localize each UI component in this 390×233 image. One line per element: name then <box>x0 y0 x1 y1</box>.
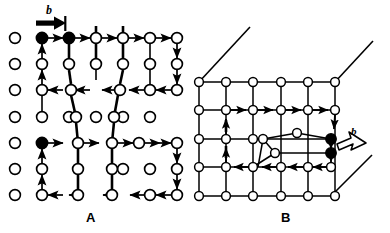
atom-open <box>73 164 84 175</box>
atom-open <box>66 85 77 96</box>
atom-open <box>304 192 313 201</box>
atom-open <box>277 78 286 87</box>
atom-open <box>118 164 129 175</box>
atom-open <box>222 78 231 87</box>
atom-open <box>145 190 156 201</box>
atom-open <box>118 59 129 70</box>
atom-open <box>331 106 340 115</box>
panel-a: b <box>10 3 183 200</box>
atom-open <box>304 106 313 115</box>
burgers-label-b: b <box>351 125 357 137</box>
atom-open <box>249 192 258 201</box>
lattice-plane <box>120 70 123 84</box>
lattice-atoms-a <box>10 33 156 201</box>
atom-open <box>249 135 258 144</box>
atom-open <box>10 112 21 123</box>
atom-open <box>37 59 48 70</box>
atom-open <box>249 106 258 115</box>
atom-open <box>109 112 120 123</box>
atom-open <box>271 149 280 158</box>
atom-open <box>277 192 286 201</box>
atom-open <box>37 112 48 123</box>
burgers-vector-marker-a: b <box>36 3 66 31</box>
atom-open <box>293 129 302 138</box>
atom-open <box>91 33 102 44</box>
atom-open <box>172 164 183 175</box>
atom-open <box>304 163 313 172</box>
atom-open <box>107 190 118 201</box>
burgers-label-a: b <box>46 3 52 17</box>
dislocation-burgers-circuit-diagram: b <box>0 0 390 233</box>
atom-open <box>37 85 48 96</box>
atom-open <box>172 190 183 201</box>
figure-canvas: b <box>0 0 390 233</box>
atom-open <box>195 192 204 201</box>
atom-open <box>331 78 340 87</box>
slip-plane-trace <box>199 27 250 82</box>
atom-open <box>145 85 156 96</box>
atom-open <box>222 106 231 115</box>
burgers-vector-marker-b: b <box>337 125 366 150</box>
burgers-circuit-upper-a <box>42 38 177 90</box>
atom-open <box>10 190 21 201</box>
atom-open <box>172 33 183 44</box>
panel-label-b: B <box>281 210 291 225</box>
atom-open <box>73 190 84 201</box>
atom-open <box>71 112 82 123</box>
atom-open <box>195 163 204 172</box>
atom-open <box>107 164 118 175</box>
atom-open <box>172 138 183 149</box>
atom-filled <box>326 134 336 144</box>
atom-open <box>195 106 204 115</box>
atom-open <box>37 164 48 175</box>
atom-open <box>134 138 145 149</box>
atom-open <box>172 59 183 70</box>
atom-open <box>37 190 48 201</box>
atom-open <box>277 163 286 172</box>
slip-plane-trace <box>335 41 373 82</box>
atom-open <box>10 164 21 175</box>
circuit-atoms-lower-a <box>36 137 182 200</box>
atom-open <box>64 59 75 70</box>
atom-filled <box>326 148 336 158</box>
lattice-planes-lower-a <box>76 122 114 190</box>
atom-open <box>10 85 21 96</box>
atom-open <box>195 78 204 87</box>
panel-label-a: A <box>86 210 96 225</box>
atom-open <box>331 192 340 201</box>
atom-filled <box>36 137 47 148</box>
atom-open <box>195 135 204 144</box>
atom-open <box>304 78 313 87</box>
atom-open <box>249 163 258 172</box>
atom-open <box>145 59 156 70</box>
slip-plane-trace <box>331 155 372 196</box>
atom-open <box>259 135 268 144</box>
distorted-bond <box>263 133 297 139</box>
atom-open <box>222 163 231 172</box>
atom-open <box>10 33 21 44</box>
atom-open <box>222 135 231 144</box>
atom-open <box>118 33 129 44</box>
atom-open <box>249 78 258 87</box>
atom-open <box>10 59 21 70</box>
atom-open <box>10 138 21 149</box>
atom-open <box>327 163 336 172</box>
atom-open <box>145 33 156 44</box>
atom-open <box>107 138 118 149</box>
atom-filled <box>36 32 47 43</box>
atom-open <box>145 112 156 123</box>
atom-open <box>145 164 156 175</box>
atom-open <box>172 85 183 96</box>
atom-filled <box>63 32 74 43</box>
atom-open <box>91 112 102 123</box>
atom-open <box>73 138 84 149</box>
atom-open <box>222 192 231 201</box>
circuit-atoms-upper-a <box>36 32 182 95</box>
atom-open <box>277 106 286 115</box>
panel-b: b <box>195 27 373 200</box>
circuit-segment <box>334 115 335 129</box>
atom-open <box>115 85 126 96</box>
atom-open <box>91 59 102 70</box>
lattice-plane <box>69 70 71 84</box>
